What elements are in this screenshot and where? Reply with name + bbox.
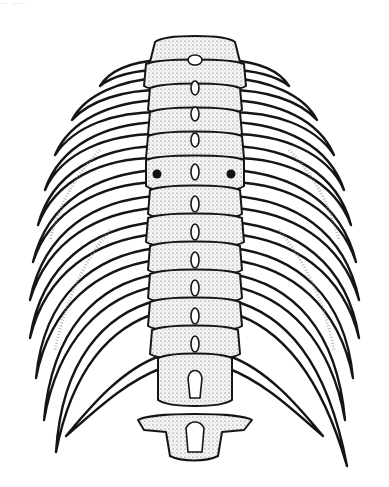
rib-cage-illustration [0,0,389,487]
marker-right [227,170,236,179]
spine [138,36,252,461]
right-ribs [227,60,359,466]
marker-left [153,170,162,179]
left-ribs [30,60,162,452]
